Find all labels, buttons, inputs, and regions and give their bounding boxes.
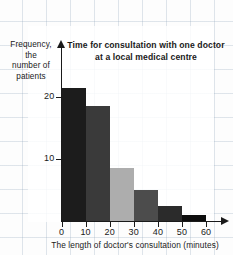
histogram-bar [134,190,158,221]
y-axis-label-line-3: patients [16,72,45,81]
histogram-bar [110,168,134,221]
x-axis-tick-label: 20 [100,227,120,237]
bars-layer [0,0,233,221]
histogram-bar [158,206,182,222]
x-axis-tick-label: 0 [52,227,72,237]
y-axis-label-line-1: Frequency, the [10,40,51,60]
chart-title-line-1: Time for consultation with one doctor [67,40,224,50]
chart-title: Time for consultation with one doctor at… [66,40,226,63]
x-axis-tick-label: 50 [172,227,192,237]
y-axis-tick [56,97,62,98]
y-axis-label: Frequency, the number of patients [4,40,58,82]
x-axis-tick-label: 10 [76,227,96,237]
chart-page: 1020 0102030405060 Time for consultation… [0,0,233,255]
x-axis-tick-label: 60 [196,227,216,237]
y-axis-tick-label: 20 [33,91,55,101]
y-axis-tick-label: 10 [33,153,55,163]
x-axis-tick-label: 30 [124,227,144,237]
chart-title-line-2: at a local medical centre [95,52,197,62]
x-axis-tick-label: 40 [148,227,168,237]
histogram-plot: 1020 0102030405060 Time for consultation… [0,0,233,255]
histogram-bar [86,106,110,221]
y-axis-label-line-2: number of [12,61,50,70]
y-axis-arrow-icon [57,40,65,48]
y-axis-line [61,46,62,222]
histogram-bar [62,88,86,221]
x-axis-arrow-icon [221,217,229,225]
y-axis-tick [56,159,62,160]
x-axis-label: The length of doctor's consultation (min… [40,240,230,250]
